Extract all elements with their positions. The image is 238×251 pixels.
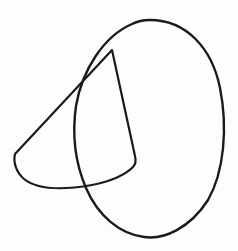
canvas-background <box>0 0 238 251</box>
drawing-canvas <box>0 0 238 251</box>
line-drawing <box>0 0 238 251</box>
